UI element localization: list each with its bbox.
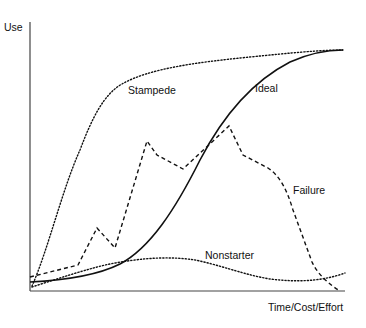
x-axis-label: Time/Cost/Effort bbox=[268, 301, 343, 313]
y-axis-label: Use bbox=[4, 21, 23, 33]
series-label-failure: Failure bbox=[293, 184, 325, 196]
series-label-ideal: Ideal bbox=[255, 82, 278, 94]
series-label-nonstarter: Nonstarter bbox=[205, 249, 254, 261]
series-label-stampede: Stampede bbox=[128, 84, 176, 96]
series-failure-line bbox=[30, 126, 340, 291]
series-stampede-line bbox=[32, 50, 343, 286]
adoption-curves-chart bbox=[0, 0, 366, 328]
